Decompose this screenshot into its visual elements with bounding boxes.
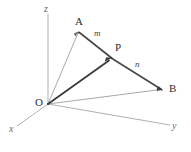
point-a-marker <box>78 31 80 33</box>
y-axis-line <box>48 104 170 125</box>
point-label-o: O <box>35 97 43 108</box>
axis-label-y: y <box>172 121 176 131</box>
point-label-p: P <box>115 42 121 53</box>
point-label-a: A <box>75 16 83 27</box>
vector-diagram-figure: A P B O z x y m n <box>0 0 191 152</box>
axis-label-z: z <box>44 4 48 14</box>
axis-label-x: x <box>9 124 13 134</box>
point-label-b: B <box>169 83 176 94</box>
segment-label-m: m <box>94 29 101 38</box>
point-o-marker <box>47 103 49 105</box>
x-axis-line <box>17 104 48 126</box>
diagram-canvas <box>0 0 191 152</box>
point-p-marker <box>110 57 112 59</box>
segment-label-n: n <box>135 60 140 69</box>
